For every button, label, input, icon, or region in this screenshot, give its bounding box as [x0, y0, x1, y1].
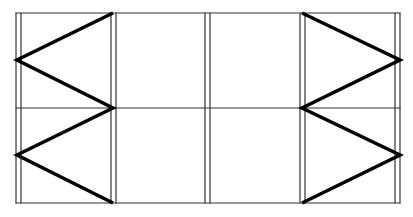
frame-diagram: [0, 0, 413, 217]
